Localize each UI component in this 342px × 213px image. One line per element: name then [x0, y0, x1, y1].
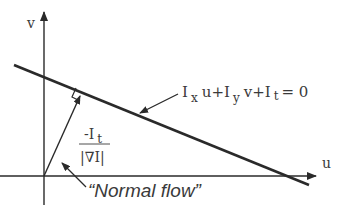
- u-axis-label: u: [322, 155, 331, 171]
- normal-flow-pointer-arrow: [62, 163, 86, 187]
- equation-pointer-arrow: [140, 94, 178, 113]
- fraction-denominator: |∇I|: [80, 149, 105, 166]
- normal-flow-vector: [44, 96, 80, 176]
- v-axis-label: v: [26, 15, 35, 31]
- constraint-equation: Ixu+Iyv+It= 0: [182, 83, 308, 105]
- fraction-numerator: -It: [84, 126, 102, 146]
- optical-flow-constraint-diagram: v u Ixu+Iyv+It= 0 -It |∇I| “Normal flow”: [0, 0, 342, 213]
- normal-flow-label: “Normal flow”: [88, 180, 203, 201]
